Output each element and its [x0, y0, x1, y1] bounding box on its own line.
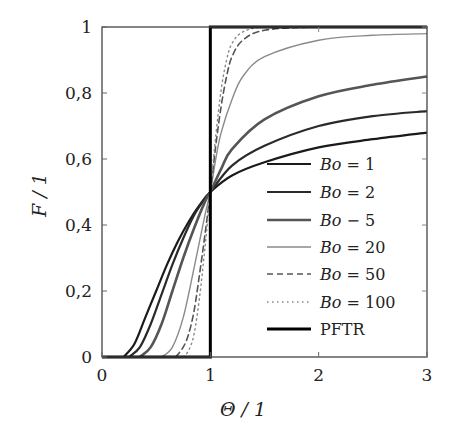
axis-ticks: 012300,20,40,60,81 [65, 17, 432, 385]
y-tick-label: 0,8 [65, 83, 92, 103]
x-tick-label: 1 [205, 365, 216, 385]
y-tick-label: 0,4 [65, 215, 92, 235]
x-tick-label: 2 [313, 365, 324, 385]
legend-label: Bo = 20 [319, 238, 385, 257]
legend-label: Bo = 1 [319, 155, 375, 174]
x-tick-label: 0 [97, 365, 108, 385]
y-tick-label: 0 [81, 347, 92, 367]
legend-label: Bo − 5 [319, 211, 375, 230]
curve-bo-5 [140, 77, 427, 358]
curve-bo-2 [129, 111, 427, 357]
y-axis-label: F / 1 [28, 173, 50, 218]
legend-label: Bo = 100 [319, 293, 396, 312]
x-axis-label: Θ / 1 [220, 398, 266, 420]
legend: Bo = 1Bo = 2Bo − 5Bo = 20Bo = 50Bo = 100… [267, 155, 396, 339]
cumulative-distribution-chart: 012300,20,40,60,81 Bo = 1Bo = 2Bo − 5Bo … [0, 0, 455, 438]
legend-label: PFTR [320, 320, 366, 339]
y-tick-label: 0,6 [65, 149, 92, 169]
legend-label: Bo = 50 [319, 265, 385, 284]
y-tick-label: 1 [81, 17, 92, 37]
x-tick-label: 3 [422, 365, 433, 385]
y-tick-label: 0,2 [65, 281, 92, 301]
legend-label: Bo = 2 [319, 183, 375, 202]
